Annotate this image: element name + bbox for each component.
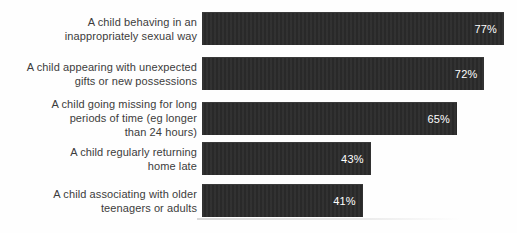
chart-row: A child appearing with unexpected gifts … bbox=[0, 57, 517, 90]
chart-row: A child regularly returning home late43% bbox=[0, 142, 517, 175]
category-label: A child regularly returning home late bbox=[0, 145, 197, 173]
category-label: A child appearing with unexpected gifts … bbox=[0, 60, 197, 88]
bar-track: 65% bbox=[202, 102, 508, 135]
bar-chart: A child behaving in an inappropriately s… bbox=[0, 0, 517, 233]
bar-track: 72% bbox=[202, 57, 508, 90]
category-label: A child associating with older teenagers… bbox=[0, 187, 197, 215]
chart-row: A child going missing for long periods o… bbox=[0, 97, 517, 139]
chart-rows: A child behaving in an inappropriately s… bbox=[0, 12, 517, 217]
category-label: A child behaving in an inappropriately s… bbox=[0, 15, 197, 43]
bar-track: 77% bbox=[202, 12, 508, 45]
bar: 65% bbox=[202, 102, 457, 135]
bar: 77% bbox=[202, 12, 504, 45]
value-label: 65% bbox=[427, 113, 457, 125]
value-label: 77% bbox=[474, 23, 504, 35]
bar-track: 41% bbox=[202, 184, 508, 217]
bar: 41% bbox=[202, 184, 363, 217]
value-label: 43% bbox=[341, 153, 371, 165]
bar: 72% bbox=[202, 57, 484, 90]
baseline-shadow bbox=[197, 218, 460, 220]
chart-row: A child behaving in an inappropriately s… bbox=[0, 12, 517, 45]
value-label: 72% bbox=[455, 68, 485, 80]
chart-row: A child associating with older teenagers… bbox=[0, 184, 517, 217]
bar-track: 43% bbox=[202, 142, 508, 175]
category-label: A child going missing for long periods o… bbox=[0, 97, 197, 139]
value-label: 41% bbox=[333, 195, 363, 207]
bar: 43% bbox=[202, 142, 371, 175]
